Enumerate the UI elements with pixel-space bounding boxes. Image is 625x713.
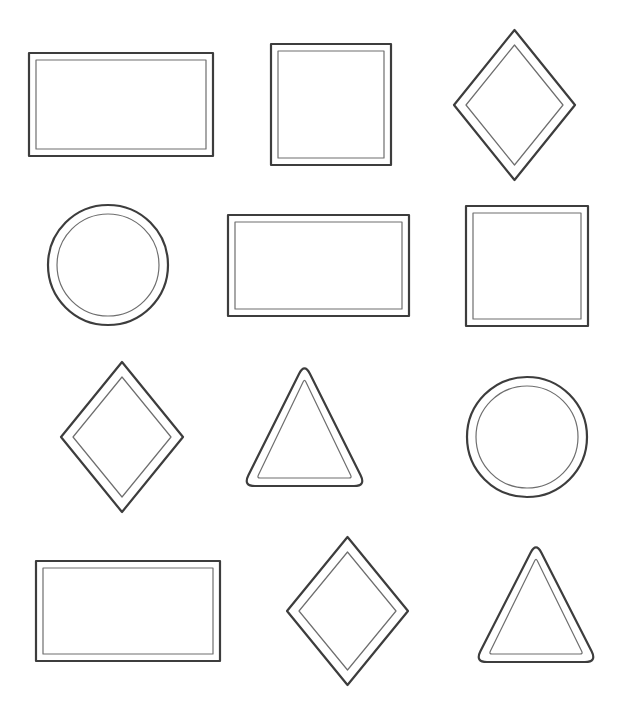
diamond-inner-border [466, 45, 563, 165]
diamond-shape [287, 537, 408, 685]
square-inner-border [278, 51, 384, 158]
square-inner-border [473, 213, 581, 319]
square-outer-border [466, 206, 588, 326]
circle-inner-border [476, 386, 578, 488]
rectangle-outer-border [228, 215, 409, 316]
diamond-inner-border [73, 377, 171, 497]
rectangle-outer-border [29, 53, 213, 156]
diamond-outer-border [287, 537, 408, 685]
shapes-canvas [0, 0, 625, 713]
rectangle-shape [29, 53, 213, 156]
square-outer-border [271, 44, 391, 165]
diamond-outer-border [61, 362, 183, 512]
diamond-shape [454, 30, 575, 180]
circle-outer-border [467, 377, 587, 497]
rectangle-inner-border [235, 222, 402, 309]
diamond-shape [61, 362, 183, 512]
rectangle-outer-border [36, 561, 220, 661]
square-shape [271, 44, 391, 165]
circle-outer-border [48, 205, 168, 325]
rectangle-inner-border [36, 60, 206, 149]
diamond-outer-border [454, 30, 575, 180]
triangle-outer-border [479, 547, 594, 662]
circle-inner-border [57, 214, 159, 316]
rectangle-shape [228, 215, 409, 316]
rectangle-shape [36, 561, 220, 661]
triangle-outer-border [247, 368, 363, 486]
diamond-inner-border [299, 552, 396, 670]
triangle-shape [479, 547, 594, 662]
circle-shape [467, 377, 587, 497]
rectangle-inner-border [43, 568, 213, 654]
triangle-shape [247, 368, 363, 486]
circle-shape [48, 205, 168, 325]
square-shape [466, 206, 588, 326]
